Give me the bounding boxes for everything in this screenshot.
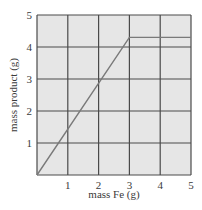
x-tick-label: 1 [65,179,71,191]
y-axis-ticks: 12345 [27,9,33,149]
chart: 12345 12345 mass Fe (g) mass product (g) [0,0,202,210]
y-tick-label: 5 [27,9,33,21]
plot-area [37,15,191,175]
x-axis-label: mass Fe (g) [88,188,140,201]
x-tick-label: 4 [157,179,163,191]
plot-background [37,15,191,175]
y-tick-label: 2 [27,105,33,117]
y-tick-label: 3 [27,73,33,85]
y-tick-label: 1 [27,137,33,149]
y-axis-label: mass product (g) [7,58,20,132]
y-tick-label: 4 [27,41,33,53]
x-tick-label: 5 [188,179,194,191]
